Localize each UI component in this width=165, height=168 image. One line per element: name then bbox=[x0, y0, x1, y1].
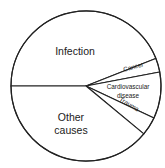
pie-chart: InfectionCancerCardiovasculardiseaseTrau… bbox=[0, 0, 165, 168]
slice-label-line: causes bbox=[54, 124, 87, 136]
slice-label-other-causes: Othercauses bbox=[54, 111, 87, 136]
slice-label-line: Other bbox=[58, 111, 85, 123]
slice-label-infection: Infection bbox=[55, 45, 95, 57]
slice-label-line: Infection bbox=[55, 45, 95, 57]
slice-label-line: Cardiovascular bbox=[107, 83, 150, 90]
